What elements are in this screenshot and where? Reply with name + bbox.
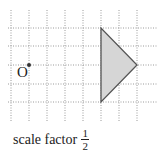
fraction-denominator: 2 xyxy=(82,141,88,150)
center-label: O xyxy=(17,64,28,81)
fraction-numerator: 1 xyxy=(82,128,88,138)
fraction: 1 2 xyxy=(81,128,89,150)
scale-factor-caption: scale factor 1 2 xyxy=(13,128,89,150)
caption-text: scale factor xyxy=(13,132,77,148)
